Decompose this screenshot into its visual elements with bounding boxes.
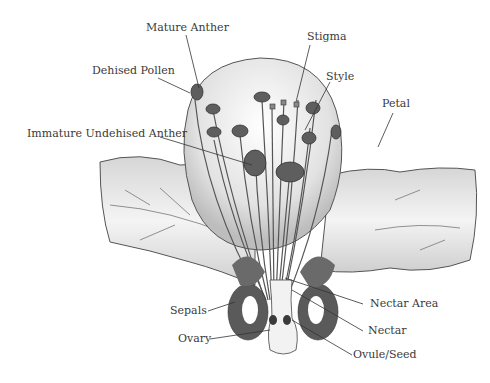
flower-diagram: Mature Anther Dehised Pollen Immature Un… bbox=[0, 0, 490, 383]
label-ovary: Ovary bbox=[178, 333, 211, 345]
label-mature-anther: Mature Anther bbox=[146, 22, 229, 34]
label-petal: Petal bbox=[382, 98, 410, 110]
label-nectar: Nectar bbox=[368, 325, 407, 337]
label-stigma: Stigma bbox=[307, 31, 347, 43]
ovule-right bbox=[283, 315, 291, 325]
flower-illustration bbox=[0, 0, 490, 383]
label-dehised-pollen: Dehised Pollen bbox=[92, 65, 175, 77]
ovule-left bbox=[269, 315, 277, 325]
label-ovule-seed: Ovule/Seed bbox=[353, 349, 417, 361]
label-style: Style bbox=[326, 71, 354, 83]
right-petal bbox=[320, 168, 477, 272]
label-nectar-area: Nectar Area bbox=[370, 298, 438, 310]
dehised-pollen-anther bbox=[191, 84, 203, 100]
label-immature-undehised-anther: Immature Undehised Anther bbox=[27, 128, 187, 140]
label-sepals: Sepals bbox=[170, 305, 207, 317]
